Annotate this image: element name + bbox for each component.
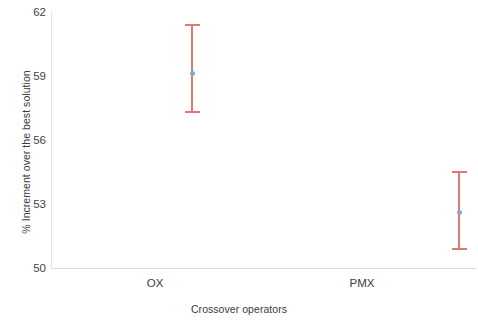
plot-area	[51, 12, 476, 268]
x-tick-label-ox: OX	[110, 277, 200, 289]
y-tick-label: 59	[2, 70, 46, 82]
x-axis-title: Crossover operators	[0, 303, 478, 315]
x-tick-label-pmx: PMX	[317, 277, 407, 289]
error-bar-cap-lower	[452, 248, 467, 250]
y-tick-label: 62	[2, 6, 46, 18]
y-tick-label: 50	[2, 262, 46, 274]
error-bar-group-pmx	[51, 12, 476, 268]
y-tick-label: 56	[2, 134, 46, 146]
error-bar-cap-upper	[452, 171, 467, 173]
x-axis-line	[51, 268, 476, 269]
y-axis-tick-labels: 62 59 56 53 50	[0, 0, 46, 320]
error-bar-chart: % Increment over the best solution 62 59…	[0, 0, 478, 320]
data-point-marker	[457, 210, 462, 215]
y-tick-label: 53	[2, 198, 46, 210]
